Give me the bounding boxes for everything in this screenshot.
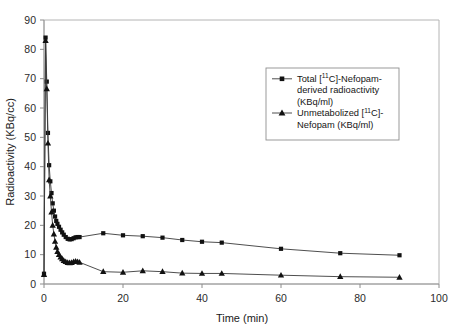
- y-axis-title: Radioactivity (KBq/cc): [4, 98, 16, 206]
- data-point-marker: [200, 240, 204, 244]
- y-tick-label: 70: [24, 72, 36, 84]
- x-axis-title: Time (min): [216, 312, 268, 324]
- data-point-marker: [121, 233, 125, 237]
- x-tick-label: 0: [41, 292, 47, 304]
- data-point-marker: [77, 235, 81, 239]
- data-point-marker: [220, 241, 224, 245]
- legend-label-line: Nefopam (KBq/ml): [297, 120, 373, 130]
- y-tick-label: 30: [24, 190, 36, 202]
- data-point-marker: [160, 236, 164, 240]
- legend-label-line: Total [11C]-Nefopam-: [297, 72, 382, 84]
- y-tick-label: 80: [24, 43, 36, 55]
- chart-figure: 020406080100 0102030405060708090 Time (m…: [0, 0, 455, 329]
- y-tick-label: 20: [24, 219, 36, 231]
- plot-background: [0, 0, 455, 329]
- y-tick-label: 10: [24, 248, 36, 260]
- data-point-marker: [53, 214, 57, 218]
- x-tick-label: 60: [275, 292, 287, 304]
- legend-label-line: Unmetabolized [11C]-: [297, 107, 383, 119]
- y-tick-label: 0: [30, 278, 36, 290]
- data-point-marker: [338, 251, 342, 255]
- data-point-marker: [180, 238, 184, 242]
- y-tick-label: 90: [24, 14, 36, 26]
- data-point-marker: [141, 234, 145, 238]
- data-point-marker: [280, 77, 285, 82]
- y-tick-label: 60: [24, 102, 36, 114]
- y-tick-label: 50: [24, 131, 36, 143]
- y-tick-label: 40: [24, 160, 36, 172]
- time-activity-curve-plot: 020406080100 0102030405060708090 Time (m…: [0, 0, 455, 329]
- chart-legend: Total [11C]-Nefopam-derived radioactivit…: [266, 68, 399, 140]
- x-tick-label: 40: [196, 292, 208, 304]
- legend-label-line: (KBq/ml): [297, 97, 333, 107]
- legend-label-line: derived radioactivity: [297, 85, 380, 95]
- data-point-marker: [397, 253, 401, 257]
- x-tick-label: 20: [117, 292, 129, 304]
- data-point-marker: [279, 247, 283, 251]
- x-tick-label: 100: [430, 292, 448, 304]
- data-point-marker: [101, 231, 105, 235]
- x-tick-label: 80: [354, 292, 366, 304]
